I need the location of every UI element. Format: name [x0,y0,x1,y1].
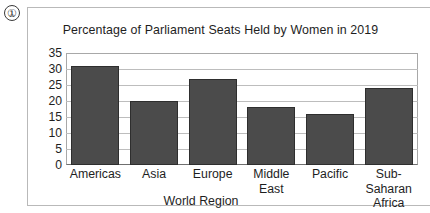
y-axis-tick-label: 15 [48,110,62,124]
bar-series [66,53,418,165]
y-axis-tick-label: 5 [55,142,62,156]
bar-slot [125,53,184,165]
bar-slot [66,53,125,165]
bar-europe[interactable] [189,79,237,165]
y-axis-tick-label: 25 [48,78,62,92]
bar-asia[interactable] [130,101,178,165]
y-axis-tick-label: 20 [48,94,62,108]
plot-area: 35302520151050 [66,53,418,165]
x-axis-tick-label: Sub-SaharanAfrica [359,167,418,211]
chart-frame: Percentage of Parliament Seats Held by W… [27,7,430,206]
bar-slot [183,53,242,165]
y-axis-tick-label: 30 [48,62,62,76]
chart-title: Percentage of Parliament Seats Held by W… [28,23,413,37]
bar-slot [359,53,418,165]
bar-slot [301,53,360,165]
bar-sub-saharan-africa[interactable] [365,88,413,165]
bar-middle-east[interactable] [247,107,295,165]
y-axis-tick-label: 10 [48,126,62,140]
bar-slot [242,53,301,165]
bar-pacific[interactable] [306,114,354,165]
bar-americas[interactable] [71,66,119,165]
y-axis-tick-label: 35 [48,46,62,60]
x-axis-title: World Region [66,194,336,208]
item-number-marker: ① [4,5,20,21]
y-axis-tick-label: 0 [55,158,62,172]
